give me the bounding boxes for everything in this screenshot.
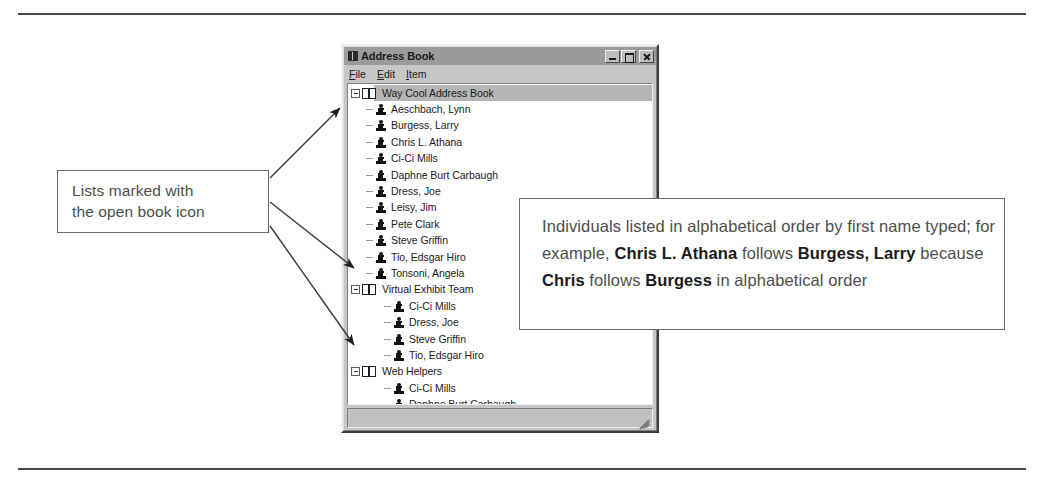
callout-lists-open-book: Lists marked with the open book icon (57, 170, 269, 233)
person-icon (375, 218, 386, 230)
arrow-to-root-book (270, 108, 340, 178)
tree-person-row[interactable]: Chris L. Athana (348, 134, 652, 150)
address-book-icon (347, 50, 359, 62)
tree-connector-line (384, 306, 391, 307)
tree-person-row[interactable]: Burgess, Larry (348, 118, 652, 134)
callout-emphasis: Burgess, Larry (798, 244, 916, 262)
callout-plain-text: in alphabetical order (712, 271, 867, 289)
window-titlebar[interactable]: Address Book (344, 47, 656, 65)
menu-item-file[interactable]: File (349, 68, 366, 80)
person-icon (375, 186, 386, 198)
callout-emphasis: Burgess (645, 271, 712, 289)
collapse-expander-icon[interactable] (351, 367, 360, 376)
close-button[interactable] (639, 50, 654, 63)
callout-plain-text: because (916, 244, 984, 262)
window-title: Address Book (361, 50, 605, 62)
tree-person-row[interactable]: Daphne Burt Carbaugh (348, 396, 652, 405)
tree-connector-line (384, 322, 391, 323)
tree-connector-line (384, 339, 391, 340)
person-icon (393, 382, 404, 394)
person-icon (393, 317, 404, 329)
tree-connector-line (384, 355, 391, 356)
tree-row-label: Dress, Joe (409, 316, 459, 329)
page-rule-top (18, 13, 1026, 15)
person-icon (375, 153, 386, 165)
menu-item-file-rest: ile (355, 68, 366, 80)
person-icon (393, 333, 404, 345)
callout-plain-text: follows (737, 244, 798, 262)
tree-row-label: Ci-Ci Mills (391, 152, 438, 165)
tree-person-row[interactable]: Daphne Burt Carbaugh (348, 167, 652, 183)
tree-person-row[interactable]: Ci-Ci Mills (348, 380, 652, 396)
person-icon (375, 120, 386, 132)
callout-right-text: Individuals listed in alphabetical order… (542, 213, 1004, 294)
resize-grip-icon[interactable] (636, 412, 650, 426)
tree-row-label: Chris L. Athana (391, 136, 462, 149)
person-icon (375, 202, 386, 214)
tree-row-label: Daphne Burt Carbaugh (409, 398, 516, 405)
tree-row-label: Virtual Exhibit Team (382, 283, 473, 296)
tree-person-row[interactable]: Tio, Edsgar Hiro (348, 347, 652, 363)
menu-item-item[interactable]: Item (406, 68, 426, 80)
person-icon (375, 267, 386, 279)
tree-person-row[interactable]: Aeschbach, Lynn (348, 101, 652, 117)
person-icon (393, 300, 404, 312)
collapse-expander-icon[interactable] (351, 285, 360, 294)
open-book-icon (362, 366, 376, 377)
callout-emphasis: Chris L. Athana (614, 244, 737, 262)
person-icon (375, 251, 386, 263)
callout-emphasis: Chris (542, 271, 585, 289)
tree-row-label: Ci-Ci Mills (409, 300, 456, 313)
person-icon (375, 104, 386, 116)
tree-row-label: Aeschbach, Lynn (391, 103, 470, 116)
tree-connector-line (366, 191, 373, 192)
tree-row-label: Ci-Ci Mills (409, 382, 456, 395)
tree-connector-line (366, 125, 373, 126)
person-icon (375, 235, 386, 247)
tree-row-label: Dress, Joe (391, 185, 441, 198)
tree-person-row[interactable]: Steve Griffin (348, 331, 652, 347)
tree-row-label: Tonsoni, Angela (391, 267, 464, 280)
maximize-button[interactable] (621, 50, 636, 63)
minimize-button[interactable] (605, 50, 620, 63)
tree-row-label: Steve Griffin (409, 333, 466, 346)
person-icon (375, 136, 386, 148)
tree-row-label: Way Cool Address Book (382, 87, 494, 100)
menu-item-edit-rest: dit (384, 68, 395, 80)
tree-connector-line (366, 273, 373, 274)
page-rule-bottom (18, 468, 1026, 470)
tree-person-row[interactable]: Ci-Ci Mills (348, 151, 652, 167)
open-book-icon (362, 284, 376, 295)
person-icon (393, 349, 404, 361)
tree-connector-line (366, 142, 373, 143)
tree-row-label: Web Helpers (382, 365, 442, 378)
tree-connector-line (384, 388, 391, 389)
callout-left-line2: the open book icon (72, 201, 268, 222)
open-book-icon (362, 88, 376, 99)
callout-plain-text: follows (585, 271, 646, 289)
menu-item-edit[interactable]: Edit (377, 68, 395, 80)
menu-item-item-rest: tem (409, 68, 427, 80)
tree-row-label: Tio, Edsgar Hiro (391, 251, 466, 264)
tree-list-row[interactable]: Way Cool Address Book (348, 85, 652, 101)
collapse-expander-icon[interactable] (351, 89, 360, 98)
tree-row-label: Burgess, Larry (391, 119, 459, 132)
callout-alphabetical-order: Individuals listed in alphabetical order… (519, 198, 1005, 330)
tree-connector-line (366, 224, 373, 225)
tree-connector-line (366, 109, 373, 110)
status-bar (347, 408, 653, 428)
person-icon (375, 169, 386, 181)
tree-row-label: Pete Clark (391, 218, 440, 231)
menu-bar: File Edit Item (344, 65, 656, 82)
tree-row-label: Steve Griffin (391, 234, 448, 247)
tree-row-label: Tio, Edsgar Hiro (409, 349, 484, 362)
tree-connector-line (366, 175, 373, 176)
callout-left-line1: Lists marked with (72, 180, 268, 201)
tree-list-row[interactable]: Web Helpers (348, 364, 652, 380)
person-icon (393, 399, 404, 405)
tree-connector-line (366, 207, 373, 208)
tree-row-label: Daphne Burt Carbaugh (391, 169, 498, 182)
tree-connector-line (366, 257, 373, 258)
window-controls (605, 50, 654, 63)
tree-row-label: Leisy, Jim (391, 201, 436, 214)
